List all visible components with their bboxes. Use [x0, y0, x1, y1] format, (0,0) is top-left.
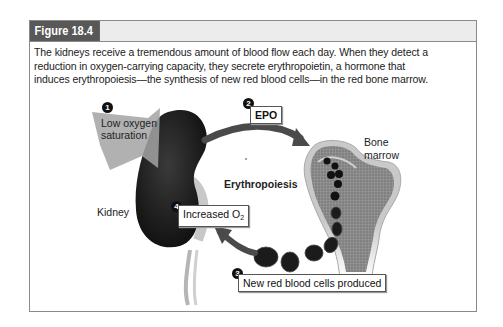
bone-marrow-label-line2: marrow — [364, 149, 399, 161]
step-4-label: Increased O2 — [178, 205, 249, 227]
step-4-text: Increased O — [183, 208, 240, 220]
erythropoiesis-label: Erythropoiesis — [224, 178, 298, 190]
bone-marrow-label-line1: Bone — [364, 136, 389, 148]
step-4-subscript: 2 — [240, 214, 244, 221]
epo-arrowhead — [292, 128, 310, 146]
epo-arrow — [205, 126, 300, 140]
step-2-label: EPO — [250, 106, 282, 124]
kidney-label: Kidney — [97, 206, 129, 218]
step-3-label: New red blood cells produced — [238, 274, 386, 292]
step-1-label: Low oxygen saturation — [101, 117, 171, 141]
step-1-badge: 1 — [102, 102, 113, 113]
